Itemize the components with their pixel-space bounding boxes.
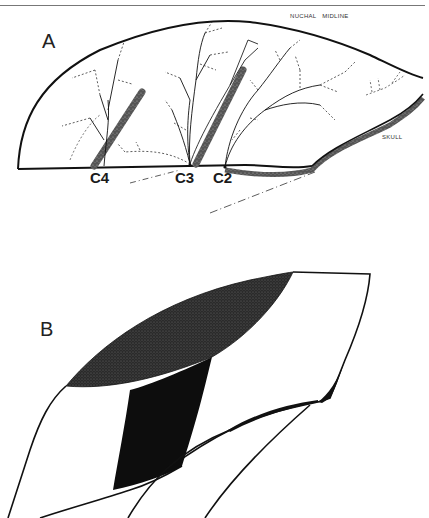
vertebra-label-c4: C4 — [90, 169, 109, 186]
panel-b-drawing — [8, 272, 370, 518]
panel-a-label: A — [42, 30, 55, 53]
vertebra-label-c3: C3 — [175, 169, 194, 186]
panel-b-label: B — [40, 318, 53, 341]
skull-label: SKULL — [382, 134, 403, 140]
nuchal-midline-label: NUCHAL MIDLINE — [290, 13, 349, 19]
figure-drawing — [0, 0, 429, 518]
vertebra-label-c2: C2 — [213, 169, 232, 186]
anatomical-figure: A NUCHAL MIDLINE SKULL C4 C3 C2 B — [0, 0, 429, 518]
